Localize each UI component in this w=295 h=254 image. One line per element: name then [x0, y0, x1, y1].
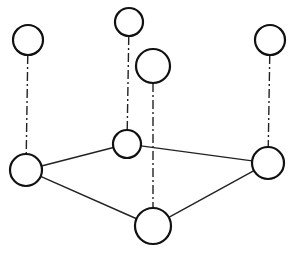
node-base-middle [113, 130, 141, 158]
node-top-middle [115, 8, 143, 36]
node-top-right [255, 25, 285, 55]
node-base-right [252, 147, 284, 179]
projection-line-top-right-to-base-right [268, 55, 269, 147]
node-top-center [136, 49, 170, 83]
node-top-left [13, 25, 43, 55]
node-base-bottom [135, 208, 171, 244]
node-base-left [10, 154, 42, 186]
edge-base-bottom-to-base-right [169, 171, 254, 218]
edge-base-middle-to-base-right [141, 146, 252, 161]
graph-nodes [10, 8, 285, 244]
projection-line-top-left-to-base-left [26, 55, 28, 154]
graph-projection-diagram [0, 0, 295, 254]
edge-base-left-to-base-bottom [41, 176, 137, 218]
edge-base-left-to-base-middle [41, 147, 113, 166]
projection-line-top-middle-to-base-middle [127, 36, 129, 130]
